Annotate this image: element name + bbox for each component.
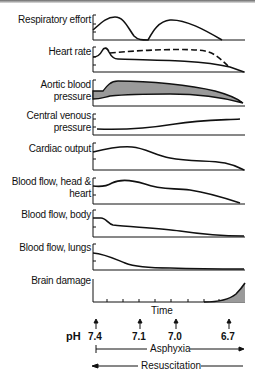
ph-arrows bbox=[94, 319, 231, 329]
panel-heart-rate bbox=[93, 47, 245, 72]
panel-brain-damage bbox=[93, 279, 245, 302]
x-axis-label-time: Time bbox=[151, 305, 173, 316]
panel-blood-flow-lungs bbox=[93, 244, 245, 270]
panel-central-venous-pressure bbox=[93, 114, 245, 135]
resuscitation-label: Resuscitation bbox=[141, 360, 201, 371]
ph-marker-7-0: 7.0 bbox=[168, 331, 182, 342]
panel-blood-flow-body bbox=[93, 210, 245, 237]
ph-label: pH bbox=[66, 331, 81, 342]
ph-marker-6-7: 6.7 bbox=[221, 331, 235, 342]
panel-cardiac-output bbox=[93, 143, 245, 170]
panel-aortic-blood-pressure bbox=[93, 80, 245, 106]
ph-marker-7-1: 7.1 bbox=[132, 331, 146, 342]
physiology-plots bbox=[0, 0, 255, 373]
ph-marker-7-4: 7.4 bbox=[88, 331, 102, 342]
asphyxia-label: Asphyxia bbox=[150, 343, 191, 354]
panel-blood-flow-head-heart bbox=[93, 178, 245, 204]
panel-respiratory-effort bbox=[93, 15, 245, 40]
